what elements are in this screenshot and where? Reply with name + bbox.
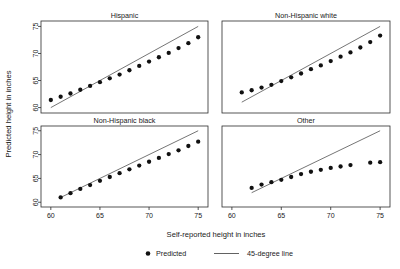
- data-point: [269, 180, 273, 184]
- data-point: [88, 183, 92, 187]
- y-tick-label: 60: [32, 104, 39, 112]
- data-point: [157, 156, 161, 160]
- data-point: [249, 186, 253, 190]
- data-point: [319, 63, 323, 67]
- data-point: [348, 163, 352, 167]
- data-point: [338, 55, 342, 59]
- panel-non-hispanic-white: Non-Hispanic white: [222, 11, 390, 114]
- data-point: [196, 35, 200, 39]
- data-point: [279, 79, 283, 83]
- x-tick-label: 70: [145, 212, 153, 219]
- data-point: [137, 163, 141, 167]
- data-point: [176, 148, 180, 152]
- data-point: [58, 195, 62, 199]
- data-point: [338, 164, 342, 168]
- data-point: [108, 76, 112, 80]
- x-tick-label: 75: [194, 212, 202, 219]
- data-point: [58, 95, 62, 99]
- data-point: [49, 98, 53, 102]
- data-point: [108, 175, 112, 179]
- panel-title-non-hispanic-white: Non-Hispanic white: [275, 11, 337, 20]
- data-point: [186, 144, 190, 148]
- data-point: [137, 64, 141, 68]
- data-point: [289, 75, 293, 79]
- data-point: [167, 152, 171, 156]
- data-point: [309, 170, 313, 174]
- data-point: [98, 80, 102, 84]
- data-point: [358, 45, 362, 49]
- data-point: [196, 140, 200, 144]
- data-point: [117, 171, 121, 175]
- data-point: [240, 90, 244, 94]
- data-point: [157, 55, 161, 59]
- data-point: [299, 71, 303, 75]
- data-point: [117, 72, 121, 76]
- panel-title-hispanic: Hispanic: [111, 11, 139, 20]
- data-point: [299, 172, 303, 176]
- data-point: [259, 85, 263, 89]
- data-point: [319, 168, 323, 172]
- data-point: [127, 68, 131, 72]
- y-tick-label: 60: [32, 198, 39, 206]
- data-point: [98, 179, 102, 183]
- legend-predicted-marker-icon: [146, 251, 151, 256]
- y-tick-label: 65: [32, 77, 39, 85]
- y-axis-title: Predicted height in inches: [4, 70, 13, 157]
- data-point: [176, 46, 180, 50]
- x-tick-label: 70: [327, 212, 335, 219]
- data-point: [348, 50, 352, 54]
- data-point: [279, 178, 283, 182]
- data-point: [269, 83, 273, 87]
- small-multiples-scatter-plot: Predicted height in inches Self-reported…: [0, 0, 400, 269]
- legend-reference-label: 45-degree line: [247, 249, 293, 258]
- y-tick-label: 75: [32, 22, 39, 30]
- y-tick-label: 75: [32, 127, 39, 135]
- x-tick-label: 60: [228, 212, 236, 219]
- data-point: [147, 59, 151, 63]
- x-tick-label: 65: [96, 212, 104, 219]
- data-point: [259, 182, 263, 186]
- data-point: [329, 59, 333, 63]
- data-point: [186, 41, 190, 45]
- data-point: [368, 40, 372, 44]
- data-point: [249, 88, 253, 92]
- data-point: [68, 91, 72, 95]
- data-point: [378, 33, 382, 37]
- data-point: [368, 161, 372, 165]
- chart-figure: Predicted height in inches Self-reported…: [0, 0, 400, 269]
- data-point: [378, 160, 382, 164]
- x-axis-title: Self-reported height in inches: [167, 230, 266, 239]
- panel-non-hispanic-black: Non-Hispanic black: [41, 116, 208, 208]
- panel-title-non-hispanic-black: Non-Hispanic black: [94, 116, 156, 125]
- panel-title-other: Other: [297, 116, 316, 125]
- data-point: [309, 67, 313, 71]
- x-tick-label: 75: [376, 212, 384, 219]
- panel-other: Other: [222, 116, 390, 208]
- y-tick-label: 65: [32, 174, 39, 182]
- panel-hispanic: Hispanic: [41, 11, 208, 114]
- data-point: [88, 84, 92, 88]
- data-point: [147, 160, 151, 164]
- y-tick-label: 70: [32, 49, 39, 57]
- x-tick-label: 65: [277, 212, 285, 219]
- y-tick-label: 70: [32, 151, 39, 159]
- x-tick-label: 60: [47, 212, 55, 219]
- data-point: [289, 175, 293, 179]
- data-point: [329, 166, 333, 170]
- data-point: [68, 191, 72, 195]
- data-point: [167, 51, 171, 55]
- legend-predicted-label: Predicted: [156, 249, 186, 258]
- data-point: [78, 187, 82, 191]
- data-point: [127, 167, 131, 171]
- data-point: [78, 88, 82, 92]
